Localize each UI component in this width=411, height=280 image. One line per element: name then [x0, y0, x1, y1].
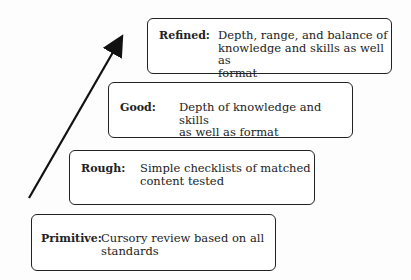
level-rough-box: Rough: Simple checklists of matched cont…: [69, 150, 315, 205]
level-label: Good:: [120, 101, 156, 114]
level-description: Depth of knowledge and skills as well as…: [179, 101, 352, 139]
level-primitive-box: Primitive: Cursory review based on all s…: [31, 214, 276, 271]
level-label: Primitive:: [41, 232, 102, 245]
level-description: Simple checklists of matched content tes…: [140, 162, 311, 187]
level-description: Depth, range, and balance of knowledge a…: [218, 29, 391, 79]
level-refined-box: Refined: Depth, range, and balance of kn…: [147, 18, 392, 74]
level-label: Rough:: [81, 162, 125, 175]
level-good-box: Good: Depth of knowledge and skills as w…: [108, 82, 353, 138]
level-description: Cursory review based on all standards: [101, 232, 264, 257]
level-label: Refined:: [159, 29, 210, 42]
